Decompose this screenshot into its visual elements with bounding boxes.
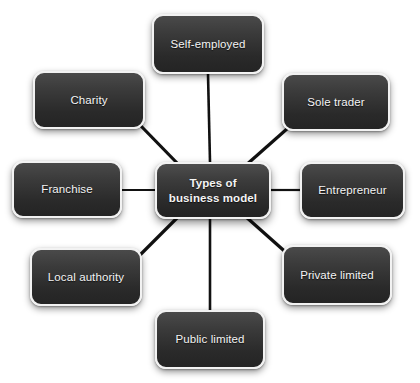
node-public-limited: Public limited: [155, 310, 265, 369]
connector-local-authority: [139, 217, 178, 256]
connector-sole-trader: [245, 128, 288, 166]
node-local-authority: Local authority: [30, 248, 142, 306]
node-label-public-limited: Public limited: [169, 332, 250, 347]
central-node: Types ofbusiness model: [155, 162, 271, 219]
node-franchise: Franchise: [12, 161, 122, 218]
node-private-limited: Private limited: [282, 245, 392, 305]
node-entrepreneur: Entrepreneur: [300, 162, 405, 219]
node-label-franchise: Franchise: [35, 182, 98, 197]
node-label-local-authority: Local authority: [42, 270, 130, 285]
node-label-entrepreneur: Entrepreneur: [312, 183, 392, 198]
connector-self-employed: [208, 74, 210, 162]
node-label-sole-trader: Sole trader: [301, 95, 370, 110]
central-node-label: Types ofbusiness model: [163, 176, 263, 206]
business-model-diagram: Types ofbusiness model Self-employedSole…: [0, 0, 420, 383]
node-label-self-employed: Self-employed: [165, 37, 252, 52]
node-sole-trader: Sole trader: [282, 73, 390, 131]
connector-charity: [140, 125, 179, 165]
node-charity: Charity: [33, 71, 145, 129]
node-label-charity: Charity: [64, 93, 113, 108]
node-label-private-limited: Private limited: [294, 268, 380, 283]
node-self-employed: Self-employed: [152, 14, 264, 74]
